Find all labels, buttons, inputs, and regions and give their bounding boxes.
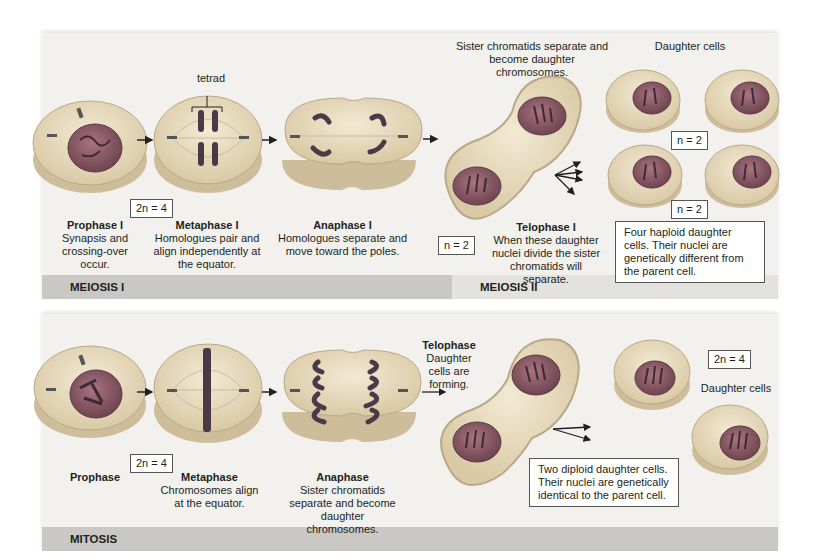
- mitosis-daughter-cells-label: Daughter cells: [696, 382, 776, 395]
- telophase-desc: Daughter cells are forming.: [426, 352, 471, 390]
- telophase-title: Telophase: [414, 339, 484, 352]
- metaphase-desc: Chromosomes align at the equator.: [161, 484, 259, 509]
- metaphase-title: Metaphase: [157, 471, 262, 484]
- prophase-caption: Prophase: [55, 471, 135, 484]
- diploid-daughter-cell-2: [692, 405, 768, 475]
- mitosis-summary-box: Two diploid daughter cells. Their nuclei…: [529, 458, 679, 507]
- anaphase-caption: Anaphase Sister chromatids separate and …: [285, 471, 400, 536]
- telophase-caption: Telophase Daughter cells are forming.: [414, 339, 484, 391]
- divergent-arrows-two: [553, 427, 590, 440]
- metaphase-caption: Metaphase Chromosomes align at the equat…: [157, 471, 262, 510]
- anaphase-title: Anaphase: [285, 471, 400, 484]
- anaphase-cell: [282, 350, 421, 442]
- prophase-cell: [34, 346, 146, 438]
- metaphase-cell: [154, 344, 262, 443]
- prophase-title: Prophase: [55, 471, 135, 484]
- mitosis-daughter-ploidy: 2n = 4: [708, 350, 751, 369]
- diploid-daughter-cell-1: [614, 340, 690, 410]
- anaphase-desc: Sister chromatids separate and become da…: [289, 484, 395, 535]
